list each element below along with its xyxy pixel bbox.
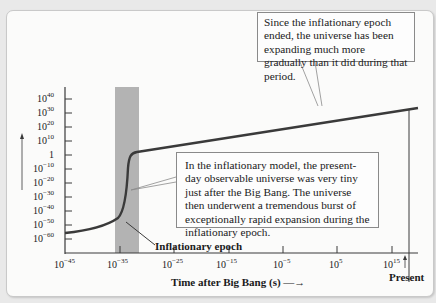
x-tick-label: 105 [329, 260, 343, 270]
y-tick-label: 1040 [14, 94, 54, 104]
x-tick-label: 10−35 [107, 260, 128, 270]
y-tick-label: 10−30 [14, 192, 54, 202]
present-label: Present [389, 271, 424, 283]
y-tick-label: 10−10 [14, 164, 54, 174]
x-tick-label: 10−15 [216, 260, 237, 270]
x-tick-label: 1015 [383, 260, 400, 270]
middle-callout: In the inflationary model, the present-d… [176, 152, 379, 228]
y-tick-label: 1020 [14, 122, 54, 132]
top-callout: Since the inflationary epoch ended, the … [257, 12, 415, 62]
inflationary-epoch-label: Inflationary epoch [155, 240, 242, 252]
y-tick-label: 1030 [14, 108, 54, 118]
x-tick-label: 10−5 [273, 260, 290, 270]
y-tick-label: 1010 [14, 136, 54, 146]
x-axis-label: Time after Big Bang (s) —→ [171, 276, 305, 288]
x-tick-label: 10−25 [162, 260, 183, 270]
y-tick-label: 10−20 [14, 178, 54, 188]
y-tick-label: 10−50 [14, 220, 54, 230]
y-tick-label: 10−60 [14, 234, 54, 244]
x-tick-label: 10−45 [54, 260, 75, 270]
y-ticks [65, 99, 72, 239]
y-tick-label: 10−40 [14, 206, 54, 216]
y-tick-label: 1 [14, 150, 54, 160]
